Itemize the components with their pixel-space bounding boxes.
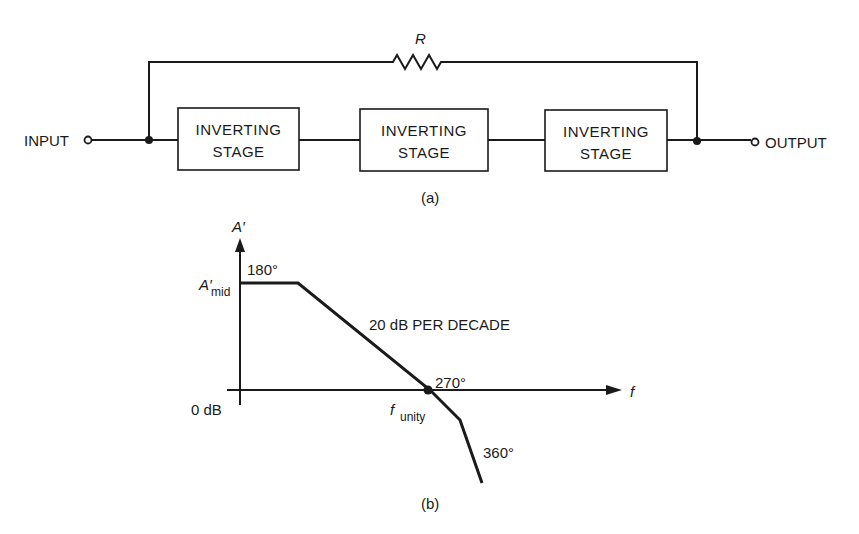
funity-label: f [390, 401, 396, 418]
phase-360-label: 360° [483, 444, 514, 461]
input-terminal-icon [85, 137, 92, 144]
caption-b: (b) [421, 495, 439, 512]
phase-180-label: 180° [247, 261, 278, 278]
svg-text:INVERTING: INVERTING [563, 123, 649, 140]
caption-a: (a) [421, 189, 439, 206]
slope-label: 20 dB PER DECADE [369, 316, 510, 333]
output-label: OUTPUT [765, 134, 827, 151]
input-label: INPUT [24, 132, 69, 149]
block-diagram-a: R INPUT OUTPUT INVERTING STAGE INVERTING… [24, 30, 827, 206]
svg-text:STAGE: STAGE [212, 143, 264, 160]
svg-text:STAGE: STAGE [398, 144, 450, 161]
amid-subscript: mid [211, 285, 230, 299]
input-junction-dot [145, 136, 153, 144]
phase-270-label: 270° [435, 374, 466, 391]
inverting-stage-3: INVERTING STAGE [545, 110, 667, 171]
inverting-stage-1: INVERTING STAGE [178, 108, 299, 170]
feedback-amplifier-diagram: R INPUT OUTPUT INVERTING STAGE INVERTING… [0, 0, 859, 534]
svg-text:INVERTING: INVERTING [381, 122, 467, 139]
svg-text:STAGE: STAGE [580, 145, 632, 162]
bode-plot-b: A′ f A′ mid 180° 20 dB PER DECADE 270° 0… [191, 218, 636, 512]
inverting-stage-2: INVERTING STAGE [360, 109, 488, 171]
funity-subscript: unity [400, 410, 425, 424]
output-junction-dot [693, 137, 701, 145]
svg-text:INVERTING: INVERTING [196, 121, 282, 138]
resistor-label: R [415, 30, 426, 47]
output-terminal-icon [752, 139, 759, 146]
x-axis-label: f [630, 383, 636, 400]
unity-gain-point [424, 386, 433, 395]
zero-db-label: 0 dB [191, 401, 222, 418]
y-axis-label: A′ [231, 218, 246, 235]
x-axis-arrow-icon [606, 385, 622, 395]
y-axis-arrow-icon [235, 238, 245, 252]
